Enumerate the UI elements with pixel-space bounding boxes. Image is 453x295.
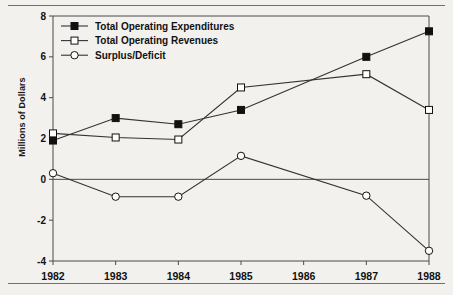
legend-marker-1	[71, 23, 78, 30]
legend-label-1: Total Operating Expenditures	[95, 21, 235, 32]
data-point-total-operating-expenditures-1988	[426, 28, 433, 35]
x-tick-label: 1987	[355, 270, 379, 282]
data-point-total-operating-revenues-1983	[112, 134, 119, 141]
y-tick-label: 4	[40, 92, 46, 103]
legend-label-3: Surplus/Deficit	[95, 50, 166, 61]
x-tick-label: 1982	[41, 270, 65, 282]
data-point-total-operating-revenues-1988	[426, 106, 433, 113]
y-tick-label: 8	[40, 11, 46, 22]
x-tick-label: 1983	[104, 270, 128, 282]
data-point-total-operating-revenues-1982	[50, 130, 57, 137]
data-point-surplus-deficit-1984	[175, 193, 182, 200]
legend-label-2: Total Operating Revenues	[95, 35, 219, 46]
data-point-surplus-deficit-1982	[49, 170, 56, 177]
data-point-total-operating-revenues-1985	[238, 84, 245, 91]
data-point-surplus-deficit-1988	[425, 247, 432, 254]
chart-figure: Millions of Dollars -4-20246819821983198…	[0, 0, 453, 295]
legend-marker-3	[71, 52, 78, 59]
data-point-total-operating-expenditures-1983	[112, 115, 119, 122]
data-point-surplus-deficit-1987	[363, 192, 370, 199]
data-point-total-operating-revenues-1984	[175, 136, 182, 143]
y-tick-label: -2	[37, 215, 46, 226]
data-point-total-operating-expenditures-1985	[238, 106, 245, 113]
legend-marker-2	[71, 37, 78, 44]
data-point-surplus-deficit-1983	[112, 193, 119, 200]
data-point-total-operating-expenditures-1987	[363, 53, 370, 60]
data-point-total-operating-expenditures-1984	[175, 121, 182, 128]
y-tick-label: 6	[40, 51, 46, 62]
x-tick-label: 1984	[167, 270, 191, 282]
y-tick-label: 0	[40, 174, 46, 185]
data-point-total-operating-expenditures-1982	[50, 137, 57, 144]
data-point-surplus-deficit-1985	[237, 152, 244, 159]
y-tick-label: 2	[40, 133, 46, 144]
series-line-surplus-deficit	[53, 156, 429, 251]
x-tick-label: 1985	[229, 270, 253, 282]
y-tick-label: -4	[37, 256, 46, 267]
data-point-total-operating-revenues-1987	[363, 71, 370, 78]
plot-area: -4-2024681982198319841985198619871988Tot…	[0, 0, 453, 295]
x-tick-label: 1986	[292, 270, 316, 282]
x-tick-label: 1988	[417, 270, 441, 282]
